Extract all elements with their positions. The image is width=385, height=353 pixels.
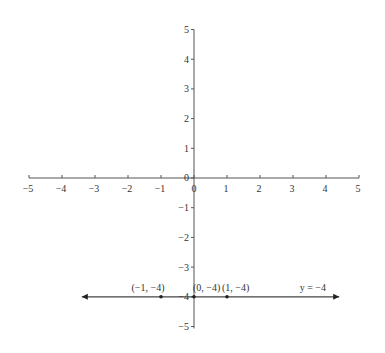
annotation-label: (1, −4) [222, 282, 249, 294]
x-tick-label: −5 [23, 183, 34, 194]
plot-series [82, 294, 339, 300]
annotation-label: y = −4 [300, 282, 326, 293]
y-tick-label: 3 [184, 83, 189, 94]
y-tick-label: 2 [184, 113, 189, 124]
x-tick-label: 1 [224, 183, 229, 194]
y-tick-label: −4 [178, 291, 189, 302]
x-tick-label: −2 [122, 183, 133, 194]
y-tick-label: 0 [184, 172, 189, 183]
x-tick-label: −3 [89, 183, 100, 194]
y-tick-label: 4 [184, 54, 189, 65]
x-tick-label: −4 [56, 183, 67, 194]
y-tick-label: −3 [178, 262, 189, 273]
annotation-label: (0, −4) [193, 282, 220, 294]
x-tick-label: −1 [155, 183, 166, 194]
data-point [192, 295, 196, 299]
left-arrow-icon [82, 294, 88, 300]
x-tick-label: 0 [192, 183, 197, 194]
y-tick-label: −2 [178, 232, 189, 243]
data-point [159, 295, 163, 299]
right-arrow-icon [333, 294, 339, 300]
x-tick-label: 5 [356, 183, 361, 194]
y-tick-label: −5 [178, 321, 189, 332]
y-tick-label: 5 [184, 24, 189, 35]
x-tick-label: 3 [290, 183, 295, 194]
y-tick-label: −1 [178, 202, 189, 213]
y-tick-label: 1 [184, 143, 189, 154]
data-point [225, 295, 229, 299]
x-tick-label: 4 [323, 183, 328, 194]
annotation-label: (−1, −4) [132, 282, 165, 294]
coordinate-plane-chart: −5−4−3−2−1012345−5−4−3−2−1012345(−1, −4)… [0, 0, 385, 353]
x-tick-label: 2 [257, 183, 262, 194]
